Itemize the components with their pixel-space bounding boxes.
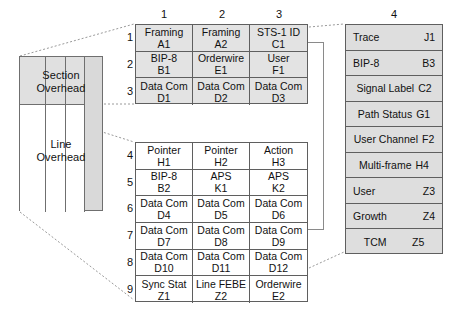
line-cell-d10: Data ComD10 [136, 250, 193, 277]
byte-code: H1 [157, 156, 170, 168]
byte-name: Framing [145, 26, 184, 38]
byte-name: Data Com [197, 224, 244, 236]
byte-code: D8 [214, 236, 227, 248]
line-cell-h2: PointerH2 [193, 143, 250, 170]
row-number-2: 2 [119, 58, 133, 70]
byte-name: TCM [364, 236, 387, 248]
line-cell-h3: ActionH3 [250, 143, 307, 170]
row-number-9: 9 [119, 283, 133, 295]
path-cell-f2: User ChannelF2 [346, 127, 442, 153]
row-number-7: 7 [119, 229, 133, 241]
line-cell-d4: Data ComD4 [136, 196, 193, 223]
byte-name: Data Com [255, 250, 302, 262]
byte-name: User [353, 185, 419, 197]
byte-name: Data Com [197, 250, 244, 262]
byte-code: D12 [269, 262, 288, 274]
path-cell-z4: GrowthZ4 [346, 204, 442, 230]
row-number-4: 4 [119, 149, 133, 161]
byte-code: D10 [154, 262, 173, 274]
leader-line-bottom [20, 212, 134, 300]
byte-name: Sync Stat [142, 278, 187, 290]
byte-name: User Channel [354, 133, 418, 145]
byte-name: User [267, 52, 289, 64]
line-cell-z1: Sync StatZ1 [136, 276, 193, 303]
byte-name: Signal Label [356, 82, 414, 94]
byte-name: STS-1 ID [257, 26, 300, 38]
line-cell-b2: BIP-8B2 [136, 170, 193, 197]
line-cell-z2: Line FEBEZ2 [193, 276, 250, 303]
byte-code: B1 [158, 64, 171, 76]
table-row: Data ComD7Data ComD8Data ComD9 [136, 223, 307, 250]
byte-code: H2 [214, 156, 227, 168]
row-number-5: 5 [119, 176, 133, 188]
line-cell-d12: Data ComD12 [250, 250, 307, 277]
line-cell-h1: PointerH1 [136, 143, 193, 170]
byte-name: Data Com [140, 80, 187, 92]
byte-name: Data Com [197, 80, 244, 92]
table-row: Data ComD1Data ComD2Data ComD3 [136, 78, 307, 105]
table-row: BIP-8B1OrderwireE1UserF1 [136, 52, 307, 79]
path-cell-b3: BIP-8B3 [346, 51, 442, 77]
byte-name: BIP-8 [353, 57, 418, 69]
line-overhead-table: PointerH1PointerH2ActionH3BIP-8B2APSK1AP… [135, 142, 308, 302]
byte-code: Z4 [419, 210, 435, 222]
byte-code: D1 [157, 92, 170, 104]
line-cell-d6: Data ComD6 [250, 196, 307, 223]
byte-code: Z2 [215, 290, 227, 302]
byte-code: E2 [272, 290, 285, 302]
byte-code: D7 [157, 236, 170, 248]
byte-code: D4 [157, 209, 170, 221]
path-cell-c2: Signal LabelC2 [346, 76, 442, 102]
line-cell-d5: Data ComD5 [193, 196, 250, 223]
line-cell-d7: Data ComD7 [136, 223, 193, 250]
byte-code: D5 [214, 209, 227, 221]
byte-name: Data Com [255, 224, 302, 236]
byte-code: D9 [272, 236, 285, 248]
byte-code: Z3 [419, 185, 435, 197]
table-row: Sync StatZ1Line FEBEZ2OrderwireE2 [136, 276, 307, 303]
byte-code: A1 [158, 38, 171, 50]
column-number-3: 3 [264, 8, 294, 20]
byte-code: F1 [272, 64, 284, 76]
byte-name: Line FEBE [196, 278, 246, 290]
byte-name: BIP-8 [151, 170, 177, 182]
byte-code: G1 [412, 108, 430, 120]
section-cell-a2: FramingA2 [193, 25, 250, 52]
byte-code: B2 [158, 182, 171, 194]
section-cell-d3: Data ComD3 [250, 78, 307, 105]
column-number-4: 4 [379, 8, 409, 20]
section-cell-e1: OrderwireE1 [193, 52, 250, 79]
byte-name: Data Com [140, 250, 187, 262]
path-cell-z5: TCMZ5 [346, 229, 442, 255]
table-row: FramingA1FramingA2STS-1 IDC1 [136, 25, 307, 52]
byte-code: B3 [418, 57, 435, 69]
byte-code: F2 [418, 133, 434, 145]
byte-name: Multi-frame [359, 159, 412, 171]
byte-name: BIP-8 [151, 52, 177, 64]
byte-name: Path Status [358, 108, 412, 120]
row-number-6: 6 [119, 202, 133, 214]
row-number-1: 1 [119, 31, 133, 43]
path-overhead-table: TraceJ1BIP-8B3Signal LabelC2Path StatusG… [345, 24, 443, 254]
byte-code: H4 [412, 159, 429, 171]
path-cell-z3: UserZ3 [346, 178, 442, 204]
byte-code: C1 [272, 38, 285, 50]
byte-name: Orderwire [198, 52, 244, 64]
line-cell-k2: APSK2 [250, 170, 307, 197]
section-cell-f1: UserF1 [250, 52, 307, 79]
block-bracket [308, 42, 324, 230]
byte-code: H3 [272, 156, 285, 168]
byte-code: Z1 [158, 290, 170, 302]
schematic-section-label: Section Overhead [19, 69, 103, 95]
byte-code: D2 [214, 92, 227, 104]
path-cell-g1: Path StatusG1 [346, 102, 442, 128]
byte-name: Trace [353, 31, 420, 43]
byte-code: A2 [215, 38, 228, 50]
byte-name: Data Com [255, 197, 302, 209]
byte-code: E1 [215, 64, 228, 76]
byte-name: Pointer [147, 144, 180, 156]
byte-name: APS [268, 170, 289, 182]
byte-name: Data Com [140, 224, 187, 236]
byte-code: K2 [272, 182, 285, 194]
table-row: Data ComD4Data ComD5Data ComD6 [136, 196, 307, 223]
